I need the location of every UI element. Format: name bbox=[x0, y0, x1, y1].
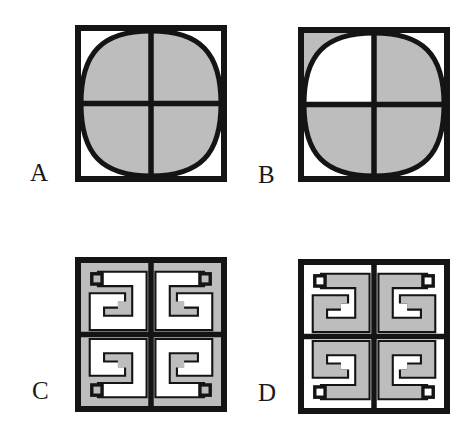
figure-label-c: C bbox=[32, 378, 49, 403]
figure-a bbox=[75, 25, 227, 182]
figure-b bbox=[298, 27, 450, 182]
figure-c bbox=[75, 257, 227, 412]
figure-label-b: B bbox=[258, 162, 275, 187]
figure-d bbox=[298, 259, 450, 414]
figure-label-d: D bbox=[258, 380, 276, 405]
figure-a-drawing bbox=[75, 25, 227, 182]
figure-sheet: A B C D bbox=[0, 0, 468, 437]
figure-label-a: A bbox=[30, 160, 48, 185]
figure-c-drawing bbox=[75, 257, 227, 412]
figure-b-drawing bbox=[298, 27, 450, 182]
figure-d-drawing bbox=[298, 259, 450, 414]
